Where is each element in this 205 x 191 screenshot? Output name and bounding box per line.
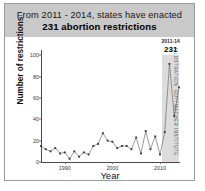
x-tick-mark	[65, 162, 66, 164]
chart-figure: From 2011 - 2014, states have enacted 23…	[0, 0, 205, 191]
x-axis-label: Year	[41, 170, 179, 181]
data-point-marker	[40, 145, 42, 147]
y-tick-mark	[39, 76, 41, 77]
data-point-marker	[135, 137, 137, 139]
data-point-marker	[102, 132, 104, 134]
x-tick-label: 1990	[59, 165, 71, 171]
data-point-marker	[69, 158, 71, 160]
data-point-marker	[164, 131, 166, 133]
data-point-marker	[169, 63, 171, 65]
x-tick-label: 2000	[106, 165, 118, 171]
chart-title-band: From 2011 - 2014, states have enacted 23…	[5, 4, 194, 37]
data-point-marker	[159, 154, 161, 156]
data-point-marker	[116, 147, 118, 149]
series-line	[41, 64, 179, 159]
data-point-marker	[64, 151, 66, 153]
data-point-marker	[45, 148, 47, 150]
y-tick-mark	[39, 98, 41, 99]
data-point-marker	[145, 130, 147, 132]
data-point-marker	[111, 141, 113, 143]
data-point-marker	[97, 143, 99, 145]
y-tick-mark	[39, 119, 41, 120]
data-point-marker	[140, 153, 142, 155]
y-tick-mark	[39, 140, 41, 141]
data-point-marker	[73, 150, 75, 152]
y-tick-label: 100	[30, 52, 39, 58]
data-point-marker	[88, 154, 90, 156]
data-point-marker	[54, 147, 56, 149]
data-point-marker	[50, 150, 52, 152]
x-tick-mark	[112, 162, 113, 164]
data-point-marker	[178, 86, 180, 88]
x-tick-label: 2010	[154, 165, 166, 171]
chart-title-line-1: From 2011 - 2014, states have enacted	[17, 9, 182, 21]
data-point-marker	[92, 145, 94, 147]
data-point-marker	[126, 145, 128, 147]
data-point-marker	[59, 153, 61, 155]
data-series	[41, 50, 179, 162]
data-point-marker	[107, 140, 109, 142]
data-point-marker	[150, 148, 152, 150]
data-point-marker	[154, 135, 156, 137]
illustration-credit: ILLUSTRATION: GUTTMACHER INSTITUTE	[173, 48, 178, 164]
data-point-marker	[130, 148, 132, 150]
y-tick-mark	[39, 55, 41, 56]
chart-title-line-2: 231 abortion restrictions	[42, 21, 156, 33]
data-point-marker	[83, 151, 85, 153]
x-tick-mark	[160, 162, 161, 164]
y-axis-label: Number of restrictions	[16, 11, 25, 111]
y-tick-mark	[39, 162, 41, 163]
data-point-marker	[78, 156, 80, 158]
data-point-marker	[121, 145, 123, 147]
